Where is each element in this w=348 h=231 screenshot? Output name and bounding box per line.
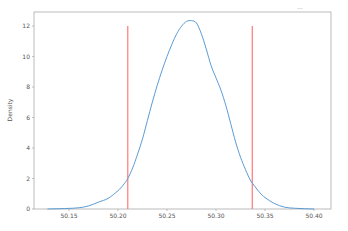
x-tick-label: 50.35	[256, 212, 273, 219]
y-axis-label: Density	[6, 98, 14, 121]
x-axis-ticks: 50.1550.2050.2550.3050.3550.40	[60, 209, 322, 219]
density-chart: ... 024681012 50.1550.2050.2550.3050.355…	[0, 0, 348, 231]
y-tick-label: 6	[26, 114, 30, 121]
clipped-header-text: ...	[297, 3, 303, 10]
y-tick-label: 10	[22, 53, 30, 60]
y-tick-label: 8	[26, 83, 30, 90]
y-tick-label: 0	[26, 205, 30, 212]
axes-frame	[34, 12, 331, 209]
x-tick-label: 50.25	[158, 212, 175, 219]
x-tick-label: 50.20	[109, 212, 126, 219]
plot-area: ... 024681012 50.1550.2050.2550.3050.355…	[6, 3, 331, 219]
y-tick-label: 4	[26, 144, 30, 151]
x-tick-label: 50.15	[60, 212, 77, 219]
x-tick-label: 50.30	[207, 212, 224, 219]
y-tick-label: 12	[22, 22, 30, 29]
x-tick-label: 50.40	[305, 212, 322, 219]
y-axis-ticks: 024681012	[22, 22, 34, 212]
y-tick-label: 2	[26, 175, 30, 182]
